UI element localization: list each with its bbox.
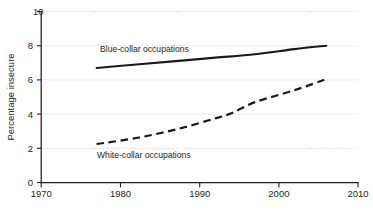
y-axis-title: Percentage insecure [5, 53, 16, 140]
chart-background [0, 0, 373, 216]
chart-container: 10 8 6 4 2 0 1970 1980 1990 2000 2010 Pe… [0, 0, 373, 216]
y-tick-label-10: 10 [33, 6, 44, 17]
y-tick-label-4: 4 [28, 109, 33, 120]
y-tick-label-8: 8 [28, 40, 33, 51]
x-tick-label-1980: 1980 [110, 188, 131, 199]
x-tick-label-1970: 1970 [31, 188, 52, 199]
y-tick-label-6: 6 [28, 74, 33, 85]
x-tick-label-2010: 2010 [347, 188, 368, 199]
white-collar-annotation: White-collar occupations [97, 150, 191, 160]
y-tick-label-2: 2 [28, 143, 33, 154]
y-tick-label-0: 0 [28, 177, 33, 188]
x-tick-label-2000: 2000 [268, 188, 289, 199]
blue-collar-annotation: Blue-collar occupations [100, 44, 189, 54]
x-tick-label-1990: 1990 [189, 188, 210, 199]
line-chart: 10 8 6 4 2 0 1970 1980 1990 2000 2010 Pe… [0, 0, 373, 216]
